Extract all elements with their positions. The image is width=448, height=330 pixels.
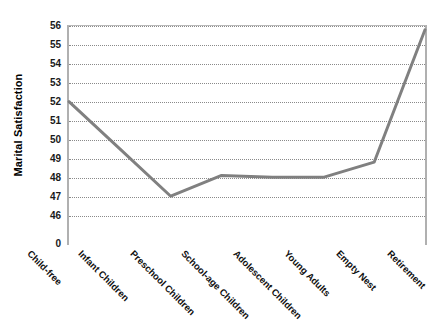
y-tick-label: 51 (50, 115, 61, 126)
x-tick-label: Young Adults (282, 248, 333, 299)
y-tick-label: 53 (50, 77, 61, 88)
x-axis-tick-labels: Child-freeInfant ChildrenPreschool Child… (0, 248, 448, 330)
x-tick-label: Empty Nest (334, 248, 379, 293)
x-tick-label: Retirement (385, 248, 428, 291)
y-tick-label: 56 (50, 20, 61, 31)
series-line-marital-satisfaction (69, 30, 425, 196)
y-tick-label: 50 (50, 134, 61, 145)
y-tick-label: 55 (50, 39, 61, 50)
data-series-svg (69, 26, 425, 245)
y-tick-label: 0 (55, 238, 61, 249)
y-tick-label: 54 (50, 58, 61, 69)
x-tick-label: Child-free (25, 248, 64, 287)
plot-area (67, 25, 427, 245)
y-tick-label: 46 (50, 210, 61, 221)
x-tick-label: Infant Children (77, 248, 132, 303)
y-tick-label: 48 (50, 172, 61, 183)
y-tick-label: 52 (50, 96, 61, 107)
line-chart: Marital Satisfaction 5655545352515049484… (0, 0, 448, 330)
y-tick-label: 49 (50, 153, 61, 164)
y-tick-label: 47 (50, 191, 61, 202)
y-axis-tick-labels: 56555453525150494847460 (36, 0, 64, 250)
y-axis-title: Marital Satisfaction (0, 0, 36, 250)
y-axis-title-text: Marital Satisfaction (12, 74, 24, 177)
